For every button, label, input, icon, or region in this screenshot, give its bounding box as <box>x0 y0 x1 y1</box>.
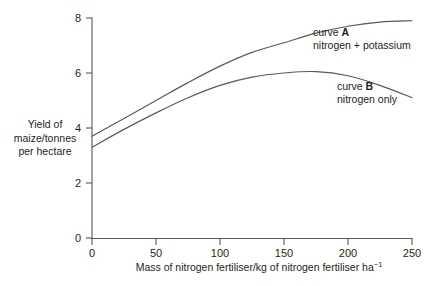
y-axis-title-line-2: maize/tonnes <box>2 132 88 146</box>
y-tick-label-2: 2 <box>75 177 81 189</box>
x-axis-title-text: Mass of nitrogen fertiliser/kg of nitrog… <box>136 261 374 273</box>
x-tick-label-250: 250 <box>403 247 421 259</box>
x-tick-label-150: 150 <box>275 247 293 259</box>
curve-a-annotation-key: A <box>342 26 350 38</box>
curve-a-annotation-subtitle: nitrogen + potassium <box>313 39 411 52</box>
curve-b-annotation-prefix: curve <box>337 80 366 92</box>
curve-a-annotation-title: curve A <box>313 26 349 39</box>
curve-b-annotation-key: B <box>366 80 374 92</box>
curve-b-annotation-subtitle: nitrogen only <box>337 93 397 106</box>
chart-figure: 8 6 4 2 0 0 50 100 150 200 250 Yield of … <box>0 0 427 286</box>
y-axis-title: Yield of maize/tonnes per hectare <box>2 118 88 159</box>
y-tick-label-0: 0 <box>75 232 81 244</box>
x-tick-label-0: 0 <box>89 247 95 259</box>
y-tick-label-8: 8 <box>75 12 81 24</box>
y-axis-title-line-1: Yield of <box>2 118 88 132</box>
x-axis-title-exponent: −1 <box>374 260 383 269</box>
x-tick-label-100: 100 <box>211 247 229 259</box>
curve-b-annotation-title: curve B <box>337 80 373 93</box>
x-tick-label-50: 50 <box>150 247 162 259</box>
x-axis-title: Mass of nitrogen fertiliser/kg of nitrog… <box>104 261 414 274</box>
curve-a-annotation-prefix: curve <box>313 26 342 38</box>
y-axis-title-line-3: per hectare <box>2 145 88 159</box>
y-tick-label-6: 6 <box>75 67 81 79</box>
x-tick-label-200: 200 <box>339 247 357 259</box>
